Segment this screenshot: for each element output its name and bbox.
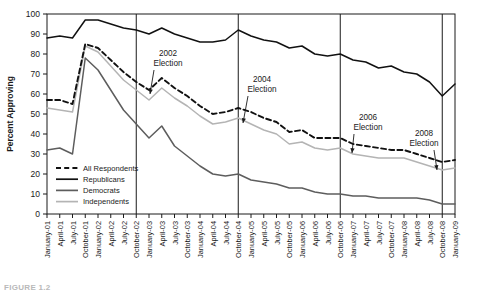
x-tick-label-April-01: April-01 (56, 221, 65, 246)
x-tick-label-January-07: January-07 (349, 221, 358, 258)
x-tick-label-July-03: July-03 (171, 221, 180, 245)
y-tick-label-70: 70 (31, 69, 41, 79)
x-tick-label-July-05: July-05 (273, 221, 282, 245)
x-tick-label-January-03: January-03 (145, 221, 154, 258)
x-tick-label-January-02: January-02 (94, 221, 103, 258)
x-tick-label-July-04: July-04 (222, 221, 231, 245)
x-tick-label-July-06: July-06 (324, 221, 333, 245)
x-tick-label-January-08: January-08 (400, 221, 409, 258)
x-tick-label-October-03: October-03 (183, 221, 192, 258)
y-tick-label-0: 0 (35, 209, 40, 219)
x-tick-label-April-08: April-08 (413, 221, 422, 246)
x-tick-label-April-04: April-04 (209, 221, 218, 246)
x-tick-label-October-04: October-04 (234, 221, 243, 258)
x-tick-label-January-01: January-01 (43, 221, 52, 258)
annotation-election-2002: Election (153, 59, 183, 68)
figure-container: 0102030405060708090100Percent ApprovingJ… (0, 0, 479, 296)
x-tick-label-July-02: July-02 (120, 221, 129, 245)
y-tick-label-90: 90 (31, 29, 41, 39)
x-tick-label-April-02: April-02 (107, 221, 116, 246)
x-tick-label-July-07: July-07 (375, 221, 384, 245)
plot-frame (47, 14, 455, 214)
x-tick-label-July-01: July-01 (69, 221, 78, 245)
y-tick-label-100: 100 (26, 9, 40, 19)
legend-label-democrats: Democrats (83, 186, 120, 195)
legend-label-all-respondents: All Respondents (83, 164, 139, 173)
x-tick-label-April-05: April-05 (260, 221, 269, 246)
annotation-year-2004: 2004 (253, 75, 272, 84)
x-tick-label-April-07: April-07 (362, 221, 371, 246)
x-tick-label-January-05: January-05 (247, 221, 256, 258)
annotation-year-2002: 2002 (159, 49, 178, 58)
annotation-election-2008: Election (409, 139, 439, 148)
y-axis-label: Percent Approving (5, 76, 15, 152)
x-tick-label-October-01: October-01 (81, 221, 90, 258)
x-tick-label-July-08: July-08 (426, 221, 435, 245)
approval-line-chart: 0102030405060708090100Percent ApprovingJ… (0, 0, 479, 296)
annotation-year-2008: 2008 (415, 129, 434, 138)
y-tick-label-10: 10 (31, 189, 41, 199)
series-line-all-respondents (47, 44, 455, 162)
legend-label-independents: Independents (83, 197, 129, 206)
series-line-independents (47, 46, 455, 170)
annotation-election-2004: Election (247, 85, 277, 94)
y-tick-label-30: 30 (31, 149, 41, 159)
x-tick-label-April-03: April-03 (158, 221, 167, 246)
x-tick-label-January-09: January-09 (451, 221, 460, 258)
annotation-arrowhead-2004 (242, 118, 246, 123)
y-tick-label-80: 80 (31, 49, 41, 59)
x-tick-label-October-08: October-08 (438, 221, 447, 258)
x-tick-label-October-06: October-06 (336, 221, 345, 258)
x-tick-label-April-06: April-06 (311, 221, 320, 246)
x-tick-label-January-06: January-06 (298, 221, 307, 258)
annotation-election-2006: Election (353, 123, 383, 132)
legend-label-republicans: Republicans (83, 175, 125, 184)
x-tick-label-October-07: October-07 (387, 221, 396, 258)
y-tick-label-40: 40 (31, 129, 41, 139)
figure-caption: FIGURE 1.2 (4, 283, 174, 294)
x-tick-label-October-02: October-02 (132, 221, 141, 258)
x-tick-label-January-04: January-04 (196, 221, 205, 258)
y-tick-label-20: 20 (31, 169, 41, 179)
y-tick-label-50: 50 (31, 109, 41, 119)
y-tick-label-60: 60 (31, 89, 41, 99)
annotation-year-2006: 2006 (359, 113, 378, 122)
annotation-arrowhead-2002 (149, 89, 153, 94)
x-tick-label-October-05: October-05 (285, 221, 294, 258)
